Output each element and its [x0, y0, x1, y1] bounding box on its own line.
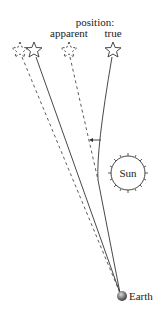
sun-label: Sun	[119, 167, 137, 179]
true-label: true	[104, 27, 121, 39]
light-deflection-diagram: position: apparent true	[0, 0, 163, 318]
star-icon-apparent-far	[12, 42, 28, 57]
earth-label: Earth	[129, 290, 153, 302]
earth-icon	[117, 291, 127, 301]
apparent-sightline-far	[22, 57, 120, 293]
star-icon-true-near	[105, 42, 121, 57]
apparent-sightline-near	[70, 57, 98, 180]
star-icon-true-far	[26, 42, 42, 57]
apparent-label: apparent	[50, 27, 88, 39]
deflection-arrow-icon	[89, 138, 101, 142]
star-icon-apparent-near	[61, 42, 77, 57]
